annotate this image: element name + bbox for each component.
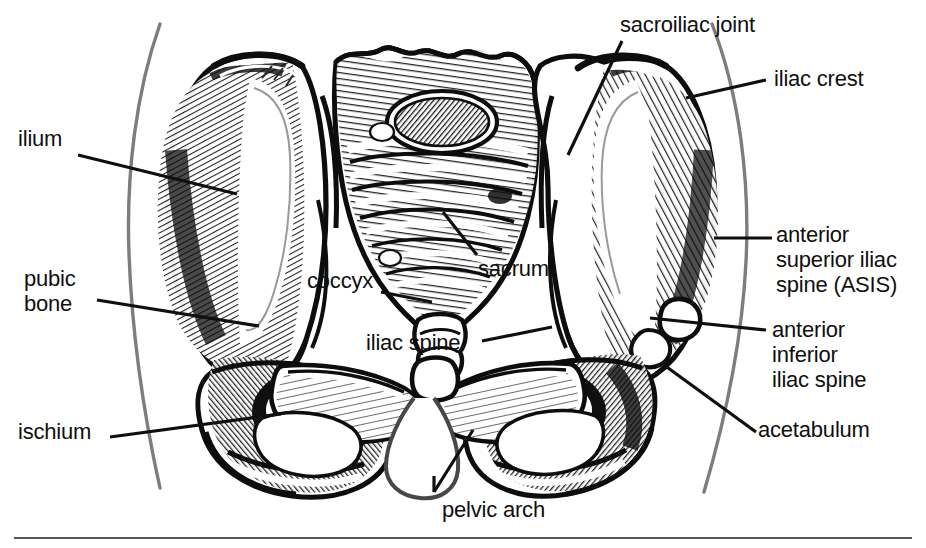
- label-pubic-bone: pubic bone: [24, 266, 76, 316]
- footer-rule: [14, 537, 912, 539]
- anatomy-figure: sacroiliac joint iliac crest ilium anter…: [0, 0, 926, 548]
- label-ischium: ischium: [18, 419, 91, 444]
- pubic-symphysis: [412, 358, 458, 401]
- iliac-spine-leader: [482, 327, 552, 341]
- label-iliac-crest: iliac crest: [774, 66, 864, 91]
- acetabulum-leader: [664, 365, 756, 432]
- label-sacroiliac-joint: sacroiliac joint: [620, 12, 755, 37]
- ilium-left: [150, 40, 350, 410]
- iliac-crest-leader: [686, 80, 766, 98]
- label-sacrum: sacrum: [478, 256, 549, 281]
- label-iliac-spine: iliac spine: [366, 330, 460, 355]
- label-acetabulum: acetabulum: [758, 417, 870, 442]
- label-anterior-inferior-iliac-spine: anterior inferior iliac spine: [772, 317, 866, 392]
- label-anterior-superior-iliac-spine: anterior superior iliac spine (ASIS): [776, 222, 897, 297]
- label-pelvic-arch: pelvic arch: [442, 497, 545, 522]
- label-ilium: ilium: [18, 126, 62, 151]
- body-outline-left: [128, 24, 160, 488]
- label-coccyx: coccyx: [307, 268, 373, 293]
- ilium-right: [530, 40, 740, 410]
